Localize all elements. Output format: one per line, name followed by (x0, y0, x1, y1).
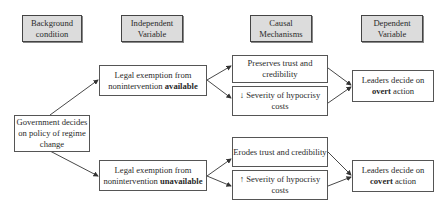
text-bold: available (165, 81, 198, 91)
covert-action-box: Leaders decide on covert action (352, 160, 434, 192)
decreased-hypocrisy-costs-box: ↓ Severity of hypocrisy costs (232, 86, 328, 116)
increased-hypocrisy-costs-box: ↑ Severity of hypocrisy costs (232, 170, 328, 200)
preserves-trust-box: Preserves trust and credibility (232, 55, 328, 83)
text-prefix: Leaders decide on (362, 165, 425, 175)
box-text: Legal exemption from nonintervention una… (100, 165, 206, 187)
text-suffix: action (393, 176, 416, 186)
exemption-unavailable-box: Legal exemption from nonintervention una… (99, 160, 207, 191)
box-text: Government decides on policy of regime c… (15, 117, 89, 150)
header-label: Dependent Variable (362, 18, 422, 40)
text-bold: overt (372, 86, 391, 96)
box-text: Erodes trust and credibility (233, 147, 326, 158)
header-background-condition: Background condition (22, 15, 82, 42)
text-bold: covert (370, 176, 393, 186)
box-text: Leaders decide on overt action (353, 75, 433, 97)
header-independent-variable: Independent Variable (121, 15, 183, 42)
text-prefix: Leaders decide on (362, 75, 425, 85)
box-text: ↑ Severity of hypocrisy costs (233, 174, 327, 196)
box-text: Preserves trust and credibility (233, 58, 327, 80)
box-text: ↓ Severity of hypocrisy costs (233, 90, 327, 112)
header-dependent-variable: Dependent Variable (361, 15, 423, 42)
exemption-available-box: Legal exemption from nonintervention ava… (99, 65, 207, 96)
box-text: Leaders decide on covert action (353, 165, 433, 187)
text-bold: unavailable (160, 176, 203, 186)
header-causal-mechanisms: Causal Mechanisms (250, 15, 312, 42)
overt-action-box: Leaders decide on overt action (352, 70, 434, 102)
government-decision-box: Government decides on policy of regime c… (14, 115, 90, 152)
header-label: Independent Variable (122, 18, 182, 40)
box-text: Legal exemption from nonintervention ava… (100, 70, 206, 92)
header-label: Background condition (23, 18, 81, 40)
erodes-trust-box: Erodes trust and credibility (232, 137, 328, 167)
text-suffix: action (391, 86, 414, 96)
header-label: Causal Mechanisms (251, 18, 311, 40)
